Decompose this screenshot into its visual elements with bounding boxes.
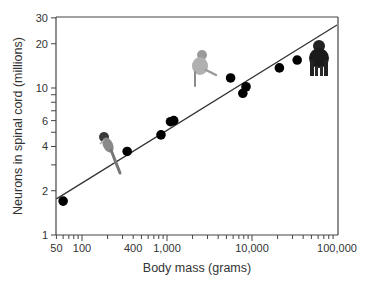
regression-line — [56, 25, 337, 199]
x-axis-title: Body mass (grams) — [143, 261, 251, 275]
plot-frame — [56, 17, 338, 235]
x-tick-label: 1,000 — [153, 242, 181, 254]
y-tick-label: 6 — [42, 115, 48, 127]
y-tick-label: 4 — [42, 140, 48, 152]
y-tick-label: 10 — [36, 82, 48, 94]
data-points — [58, 55, 302, 206]
y-tick-label: 1 — [42, 229, 48, 241]
x-tick-label: 10,000 — [235, 242, 269, 254]
data-point — [275, 63, 285, 73]
y-axis-title: Neurons in spinal cord (millions) — [11, 37, 25, 215]
x-axis: 501004001,00010,000100,000 — [50, 235, 357, 254]
x-tick-label: 100 — [73, 242, 91, 254]
y-tick-label: 20 — [36, 38, 48, 50]
monkey-icon — [192, 50, 216, 86]
x-tick-label: 100,000 — [317, 242, 357, 254]
data-point — [292, 55, 302, 65]
data-point — [122, 147, 132, 157]
chimpanzee-icon — [309, 40, 329, 76]
data-point — [58, 196, 68, 206]
x-tick-label: 400 — [124, 242, 142, 254]
y-tick-label: 2 — [42, 185, 48, 197]
x-tick-label: 50 — [50, 242, 62, 254]
data-point — [241, 82, 251, 92]
data-point — [156, 130, 166, 140]
y-axis: 1246102030 — [36, 12, 56, 241]
data-point — [169, 116, 179, 126]
data-point — [226, 73, 236, 83]
small-primate-icon — [99, 132, 120, 173]
scatter-chart: 501004001,00010,000100,000 1246102030 Bo… — [0, 0, 372, 290]
y-tick-label: 30 — [36, 12, 48, 24]
